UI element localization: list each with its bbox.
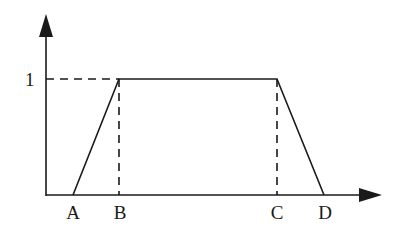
x-label-c: C xyxy=(271,202,284,223)
x-axis-arrowhead xyxy=(359,188,382,202)
trapezoid-diagram: 1 A B C D xyxy=(0,0,402,228)
x-label-a: A xyxy=(66,202,80,223)
y-tick-label-one: 1 xyxy=(25,69,35,90)
trapezoid-curve xyxy=(73,79,324,195)
y-axis-arrowhead xyxy=(39,14,53,37)
x-label-d: D xyxy=(318,202,332,223)
x-label-b: B xyxy=(114,202,127,223)
